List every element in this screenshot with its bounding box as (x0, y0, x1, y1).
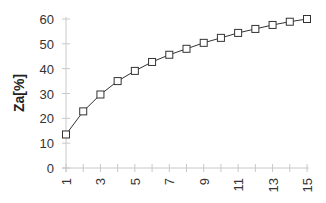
y-tick-label: 0 (47, 161, 54, 176)
x-tick-label: 3 (93, 178, 108, 185)
y-tick-label: 10 (40, 136, 54, 151)
square-marker-icon (166, 51, 173, 58)
series-line (66, 19, 307, 134)
y-tick-label: 40 (40, 62, 54, 77)
x-tick-label: 11 (231, 178, 246, 192)
square-marker-icon (131, 67, 138, 74)
square-marker-icon (217, 34, 224, 41)
square-marker-icon (200, 39, 207, 46)
y-tick-label: 50 (40, 37, 54, 52)
line-chart: 0102030405060 13579111315 Za[%] (0, 0, 326, 203)
x-tick-label: 13 (266, 178, 281, 192)
square-marker-icon (183, 45, 190, 52)
x-tick-label: 5 (128, 178, 143, 185)
square-marker-icon (63, 131, 70, 138)
square-marker-icon (235, 29, 242, 36)
y-tick-label: 20 (40, 111, 54, 126)
y-axis: 0102030405060 (40, 12, 70, 176)
x-tick-label: 15 (300, 178, 315, 192)
square-marker-icon (286, 18, 293, 25)
x-tick-label: 1 (59, 178, 74, 185)
y-tick-label: 30 (40, 87, 54, 102)
square-marker-icon (149, 58, 156, 65)
square-marker-icon (114, 78, 121, 85)
x-tick-label: 7 (162, 178, 177, 185)
square-marker-icon (269, 21, 276, 28)
square-marker-icon (80, 108, 87, 115)
y-tick-label: 60 (40, 12, 54, 27)
x-tick-label: 9 (197, 178, 212, 185)
square-marker-icon (304, 16, 311, 23)
x-axis: 13579111315 (59, 164, 315, 192)
y-axis-label: Za[%] (11, 74, 27, 112)
square-marker-icon (97, 91, 104, 98)
data-series (63, 16, 311, 138)
square-marker-icon (252, 25, 259, 32)
